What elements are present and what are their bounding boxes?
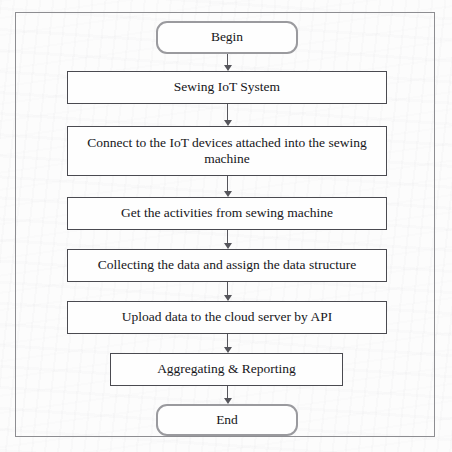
flowchart-node-collect-assign-structure: Collecting the data and assign the data …: [67, 249, 387, 282]
connector-arrow: [227, 386, 228, 404]
flowchart-canvas: BeginSewing IoT SystemConnect to the IoT…: [0, 0, 452, 452]
node-label: Upload data to the cloud server by API: [122, 309, 332, 325]
connector-arrow: [227, 334, 228, 353]
connector-arrow: [227, 230, 228, 249]
flowchart-node-end: End: [156, 404, 298, 436]
node-label: End: [216, 412, 238, 428]
connector-arrow: [227, 176, 228, 197]
connector-arrow: [227, 104, 228, 126]
flowchart-node-upload-cloud-api: Upload data to the cloud server by API: [67, 301, 387, 334]
connector-arrow: [227, 282, 228, 301]
node-label: Aggregating & Reporting: [157, 361, 296, 377]
flowchart-node-aggregating-reporting: Aggregating & Reporting: [110, 353, 343, 386]
connector-line: [227, 176, 228, 192]
flowchart-node-get-activities: Get the activities from sewing machine: [67, 197, 387, 230]
connector-line: [227, 334, 228, 348]
flowchart-node-sewing-iot-system: Sewing IoT System: [67, 71, 387, 104]
node-label: Begin: [211, 29, 243, 45]
node-label: Get the activities from sewing machine: [121, 205, 333, 221]
node-label: Sewing IoT System: [174, 79, 280, 95]
connector-line: [227, 104, 228, 121]
node-label: Connect to the IoT devices attached into…: [87, 135, 366, 168]
flowchart-node-begin: Begin: [156, 21, 298, 54]
connector-line: [227, 230, 228, 244]
node-label: Collecting the data and assign the data …: [98, 257, 356, 273]
connector-line: [227, 282, 228, 296]
connector-arrow: [227, 54, 228, 71]
flowchart-node-connect-iot-devices: Connect to the IoT devices attached into…: [67, 126, 387, 176]
